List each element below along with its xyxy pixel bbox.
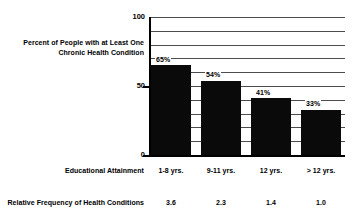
relative-frequency-gt-12-yrs: 1.0: [301, 198, 341, 207]
category-label-9-11-yrs: 9-11 yrs.: [201, 166, 241, 175]
bar-value-label-gt-12-yrs: 33%: [305, 99, 321, 108]
category-label-gt-12-yrs: > 12 yrs.: [301, 166, 341, 175]
y-tick-100: 100: [119, 13, 145, 21]
chart-figure: Percent of People with at Least One Chro…: [0, 0, 352, 223]
relative-frequency-values-row: 3.6 2.3 1.4 1.0: [151, 198, 345, 208]
bar-9-11-yrs: [201, 81, 241, 156]
educational-attainment-row-label: Educational Attainment: [4, 166, 144, 175]
category-label-12-yrs: 12 yrs.: [251, 166, 291, 175]
bar-value-label-1-8-yrs: 65%: [155, 55, 171, 64]
bar-1-8-yrs: [151, 65, 191, 155]
category-label-1-8-yrs: 1-8 yrs.: [151, 166, 191, 175]
bar-gt-12-yrs: [301, 110, 341, 156]
gridline-100: [151, 17, 345, 18]
bar-value-label-9-11-yrs: 54%: [205, 70, 221, 79]
gridline-70: [151, 58, 345, 59]
bar-value-label-12-yrs: 41%: [255, 88, 271, 97]
y-axis-tick-labels: 100 50 0: [115, 0, 145, 223]
relative-frequency-9-11-yrs: 2.3: [201, 198, 241, 207]
plot-area: 65% 54% 41% 33%: [151, 17, 345, 155]
y-tick-50: 50: [119, 82, 145, 90]
gridline-80: [151, 45, 345, 46]
relative-frequency-row-label: Relative Frequency of Health Conditions: [4, 198, 144, 207]
relative-frequency-12-yrs: 1.4: [251, 198, 291, 207]
bar-12-yrs: [251, 98, 291, 155]
relative-frequency-1-8-yrs: 3.6: [151, 198, 191, 207]
y-tick-0: 0: [119, 151, 145, 159]
gridline-90: [151, 31, 345, 32]
x-axis-baseline: [151, 155, 345, 157]
category-labels-row: 1-8 yrs. 9-11 yrs. 12 yrs. > 12 yrs.: [151, 166, 345, 176]
